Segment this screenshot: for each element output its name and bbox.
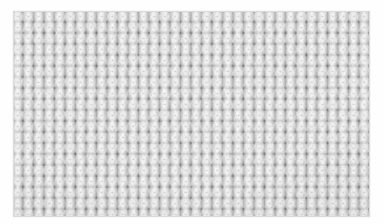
- stitch-eyelet-holes-secondary-layer: [14, 12, 369, 216]
- yarn-fibre-grain-layer: [14, 12, 369, 216]
- exposure-lift-layer: [14, 12, 369, 216]
- rib-highlight-layer: [14, 12, 369, 216]
- yarn-fuzz-highlight-layer: [14, 12, 369, 216]
- vertical-rib-wales-layer: [14, 12, 369, 216]
- swatch-inner-focus-group: [14, 12, 369, 216]
- stitch-loop-lattice-left-layer: [14, 12, 369, 216]
- lighting-vignette-layer: [14, 12, 369, 216]
- yarn-base-tone-layer: [14, 12, 369, 216]
- stitch-loop-lattice-right-layer: [14, 12, 369, 216]
- image-canvas: [0, 0, 384, 224]
- stitch-eyelet-holes-layer: [14, 12, 369, 216]
- knit-fabric-swatch: [14, 12, 369, 216]
- horizontal-stitch-courses-layer: [14, 12, 369, 216]
